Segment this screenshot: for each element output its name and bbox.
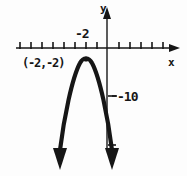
curve-left-arrow-icon [53,148,67,170]
x-axis-label: x [168,56,174,69]
y-axis-label: y [100,2,106,15]
x-axis-tick-label: -2 [75,26,89,41]
y-axis-tick-label: -10 [117,89,137,104]
curve-right-arrow-icon [105,148,119,170]
vertex-coordinate-label: (-2,-2) [22,56,64,70]
parabola-curve [60,59,112,151]
vertex-point [83,56,88,61]
x-axis-arrow-icon [169,44,180,52]
graph-figure: y x -2 (-2,-2) -10 [0,0,187,176]
coordinate-plane [0,0,187,176]
